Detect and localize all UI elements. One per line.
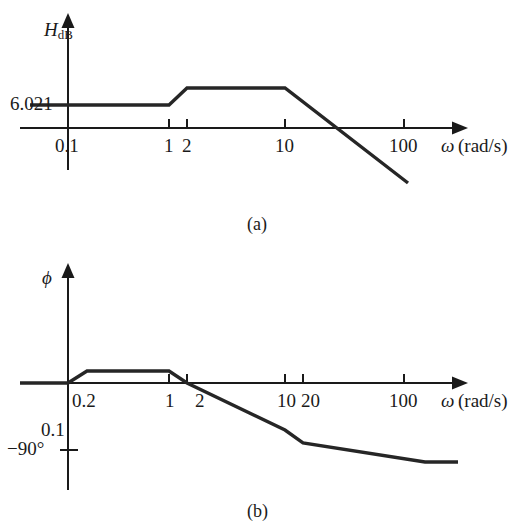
x-axis-units-a: (rad/s) — [458, 136, 508, 155]
panel-caption-a: (a) — [247, 215, 267, 233]
phase-plot-graphic — [0, 240, 527, 527]
y-axis-label-a: HdB — [44, 20, 73, 42]
x-tick-label-2-b: 2 — [195, 391, 205, 410]
origin-label-b: 0.1 — [41, 420, 65, 439]
x-tick-label-20-b: 20 — [301, 391, 320, 410]
magnitude-asymptote-curve — [30, 88, 408, 183]
x-tick-label-100-b: 100 — [389, 391, 418, 410]
x-tick-label-0.1-a: 0.1 — [55, 136, 79, 155]
phase-asymptote-curve — [20, 371, 458, 462]
panel-caption-b: (b) — [247, 502, 268, 520]
x-axis-a — [20, 122, 468, 135]
x-axis-units-b: (rad/s) — [458, 391, 508, 410]
x-tick-label-100-a: 100 — [389, 136, 418, 155]
x-axis-label-a: ω — [441, 136, 454, 155]
x-tick-label-2-a: 2 — [182, 136, 192, 155]
x-axis-b — [20, 377, 468, 390]
x-tick-label-10-a: 10 — [275, 136, 294, 155]
magnitude-value-label: 6.021 — [10, 94, 53, 113]
y-axis-label-b: ϕ — [42, 268, 52, 287]
magnitude-plot-graphic — [0, 0, 527, 240]
y-tick-label-minus90: −90° — [7, 439, 44, 458]
x-tick-label-10-b: 10 — [277, 391, 296, 410]
phase-plot-panel: ϕ 0.2 1 2 10 20 100 0.1 −90° ω (rad/s) (… — [0, 240, 527, 527]
magnitude-plot-panel: HdB 6.021 0.1 1 2 10 100 ω (rad/s) (a) — [0, 0, 527, 240]
x-tick-label-0.2-b: 0.2 — [72, 391, 96, 410]
x-tick-label-1-b: 1 — [165, 391, 175, 410]
bode-plot-figure: HdB 6.021 0.1 1 2 10 100 ω (rad/s) (a) — [0, 0, 527, 527]
x-tick-label-1-a: 1 — [164, 136, 174, 155]
x-axis-label-b: ω — [441, 391, 454, 410]
